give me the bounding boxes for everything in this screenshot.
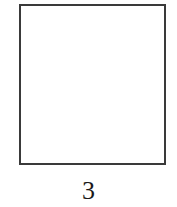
square-shape xyxy=(19,4,166,165)
figure-label: 3 xyxy=(0,177,177,205)
